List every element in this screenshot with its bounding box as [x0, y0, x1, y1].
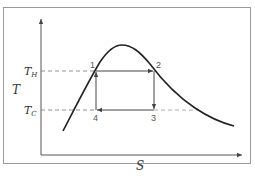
point-4-label: 4 [93, 113, 98, 123]
saturation-curve [63, 45, 234, 131]
x-axis-label: S [136, 159, 144, 173]
th-label: TH [24, 65, 38, 79]
tc-label: TC [24, 104, 37, 118]
point-3-label: 3 [151, 113, 156, 123]
th-subscript: H [30, 71, 38, 79]
point-2-label: 2 [156, 60, 161, 70]
tc-subscript: C [31, 110, 37, 118]
ts-diagram: T S TH TC 1 2 3 4 [0, 0, 255, 180]
y-axis-label: T [12, 83, 21, 97]
point-1-label: 1 [90, 60, 95, 70]
